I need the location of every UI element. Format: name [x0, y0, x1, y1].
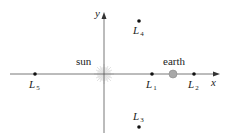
x-axis: [10, 72, 220, 77]
y-axis-label: y: [95, 8, 100, 19]
lagrange-diagram: [0, 0, 233, 138]
l5-point: [33, 72, 37, 76]
l4-label: L4: [133, 25, 144, 38]
earth-label: earth: [163, 56, 185, 67]
earth-icon: [169, 70, 177, 78]
l1-label: L1: [146, 79, 157, 92]
l2-label: L2: [188, 79, 199, 92]
l4-point: [137, 19, 141, 23]
l3-point: [137, 125, 141, 129]
x-axis-label: x: [211, 77, 216, 88]
l5-label: L5: [29, 79, 40, 92]
sun-label: sun: [76, 56, 91, 67]
l2-point: [192, 72, 196, 76]
l3-label: L3: [133, 111, 144, 124]
l1-point: [150, 72, 154, 76]
